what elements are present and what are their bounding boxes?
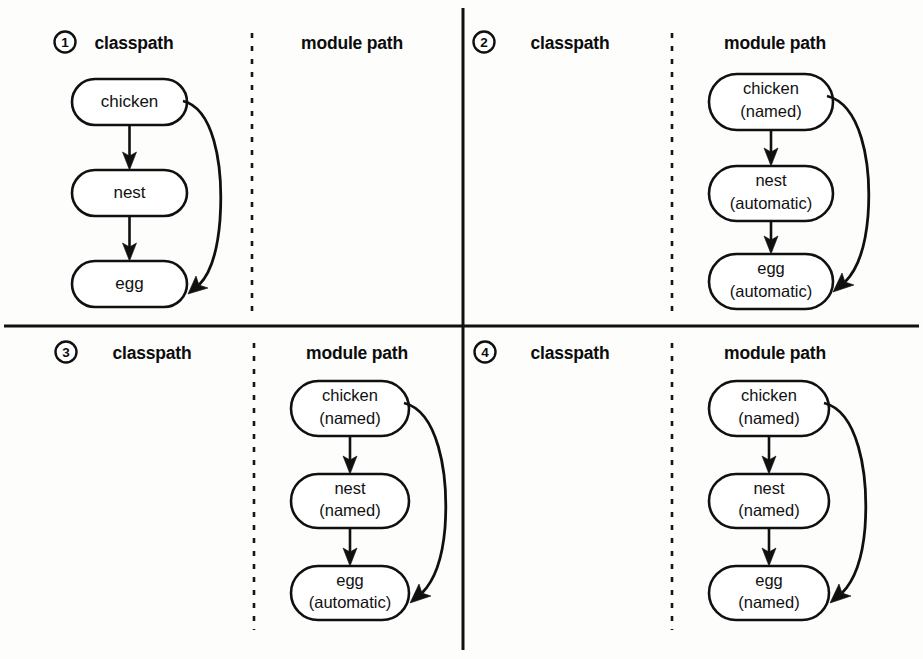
quadrant-3-module-path-header: module path — [306, 343, 408, 363]
quadrant-3-node-chicken: chicken (named) — [291, 381, 409, 436]
quadrant-2: 2 classpath module path chicken (named) … — [474, 32, 869, 318]
quadrant-1-node-egg: egg — [72, 261, 187, 307]
node-label-line1: nest — [755, 171, 787, 189]
quadrant-3-classpath-header: classpath — [113, 343, 192, 363]
quadrant-3-edge-nest-egg — [343, 528, 357, 566]
quadrant-4-node-egg: egg (named) — [709, 566, 829, 620]
quadrant-4-badge: 4 — [475, 342, 496, 363]
quadrant-1-edge-chicken-nest — [123, 125, 137, 170]
quadrant-4: 4 classpath module path chicken (named) … — [475, 342, 866, 631]
quadrant-2-node-egg: egg (automatic) — [709, 254, 833, 309]
quadrant-2-classpath-header: classpath — [531, 33, 610, 53]
quadrant-2-module-path-header: module path — [724, 33, 826, 53]
quadrant-4-edge-nest-egg — [762, 528, 776, 566]
node-label-line2: (named) — [738, 409, 799, 427]
figure-canvas: 1 classpath module path chicken nest egg — [0, 0, 923, 659]
node-label-line2: (automatic) — [730, 194, 813, 212]
quadrant-3-edge-chicken-nest — [343, 436, 357, 474]
node-label-line2: (automatic) — [730, 282, 813, 300]
quadrant-1: 1 classpath module path chicken nest egg — [55, 32, 403, 318]
quadrant-4-node-chicken: chicken (named) — [709, 381, 829, 436]
quadrant-2-edge-chicken-nest — [764, 130, 778, 166]
node-label-line1: chicken — [741, 386, 797, 404]
quadrant-3-node-nest: nest (named) — [291, 474, 409, 528]
quadrant-3-edge-chicken-egg — [404, 403, 446, 603]
edge-curve-path — [183, 101, 221, 285]
quadrant-1-number: 1 — [61, 35, 69, 50]
node-label-line1: egg — [115, 274, 143, 293]
quadrant-1-classpath-header: classpath — [95, 33, 174, 53]
quadrant-4-node-nest: nest (named) — [709, 474, 829, 528]
quadrant-2-node-nest: nest (automatic) — [709, 166, 833, 221]
quadrant-3-badge: 3 — [56, 342, 77, 363]
quadrant-1-badge: 1 — [55, 32, 76, 53]
quadrant-4-edge-chicken-egg — [824, 403, 866, 603]
quadrant-1-edge-nest-egg — [123, 216, 137, 261]
quadrant-3-number: 3 — [62, 345, 70, 360]
node-label-line1: nest — [753, 479, 785, 497]
node-label-line2: (automatic) — [309, 593, 392, 611]
node-label-line1: nest — [113, 183, 145, 202]
edge-curve-path — [404, 403, 446, 593]
edge-curve-path — [824, 403, 866, 593]
node-label-line2: (named) — [738, 501, 799, 519]
node-label-line1: chicken — [101, 92, 159, 111]
quadrant-4-module-path-header: module path — [724, 343, 826, 363]
quadrant-1-node-chicken: chicken — [72, 79, 187, 125]
node-label-line1: nest — [334, 479, 366, 497]
node-label-line2: (named) — [740, 102, 801, 120]
node-label-line1: chicken — [322, 386, 378, 404]
quadrant-2-badge: 2 — [474, 32, 495, 53]
quadrant-1-edge-chicken-egg — [183, 101, 221, 294]
quadrant-4-classpath-header: classpath — [531, 343, 610, 363]
node-label-line1: egg — [755, 571, 783, 589]
quadrant-4-edge-chicken-nest — [762, 436, 776, 474]
quadrant-1-module-path-header: module path — [301, 33, 403, 53]
node-label-line2: (named) — [319, 409, 380, 427]
quadrant-2-edge-nest-egg — [764, 221, 778, 254]
quadrant-3: 3 classpath module path chicken (named) … — [56, 342, 446, 631]
node-label-line2: (named) — [319, 501, 380, 519]
diagram-svg: 1 classpath module path chicken nest egg — [0, 0, 923, 659]
quadrant-2-node-chicken: chicken (named) — [709, 74, 833, 130]
quadrant-3-node-egg: egg (automatic) — [291, 566, 409, 620]
node-label-line1: chicken — [743, 79, 799, 97]
quadrant-4-number: 4 — [481, 345, 489, 360]
node-label-line1: egg — [757, 259, 785, 277]
quadrant-1-node-nest: nest — [72, 170, 187, 216]
quadrant-2-number: 2 — [480, 35, 488, 50]
node-label-line2: (named) — [738, 593, 799, 611]
node-label-line1: egg — [336, 571, 364, 589]
